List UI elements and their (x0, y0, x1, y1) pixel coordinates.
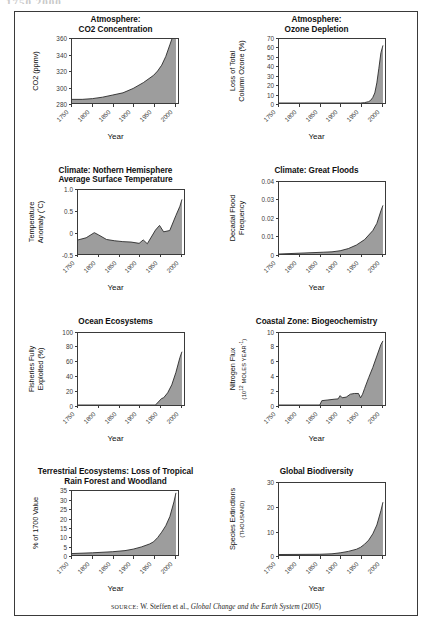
x-axis-label-tropical-forest-loss: Year (15, 584, 216, 593)
chart-cell-ozone-depletion: Atmosphere:Ozone Depletion01020304050607… (216, 12, 417, 163)
area-series-ozone-depletion (279, 39, 385, 103)
x-tick-label: 1950 (345, 108, 360, 123)
area-series-surface-temperature (78, 190, 184, 254)
chart-title-line2: CO2 Concentration (19, 25, 212, 35)
chart-title-surface-temperature: Climate: Nothern HemisphereAverage Surfa… (15, 166, 216, 185)
x-axis-label-co2-concentration: Year (15, 132, 216, 141)
x-tick-mark (320, 556, 321, 559)
x-tick-mark (92, 104, 93, 107)
x-axis-label-ocean-ecosystems: Year (15, 434, 216, 443)
x-tick-mark (98, 255, 99, 258)
figure-frame: Atmosphere:CO2 Concentration280300320340… (14, 11, 418, 616)
y-axis-label-co2-concentration: CO2 (ppmv) (31, 38, 40, 104)
figure-page: 1750 2000 Atmosphere:CO2 Concentration28… (0, 0, 433, 629)
y-tick-label: 300 (15, 84, 67, 91)
source-year: (2005) (300, 603, 321, 611)
chart-title-line2: Ozone Depletion (220, 25, 413, 35)
x-tick-label: 1950 (345, 259, 360, 274)
x-tick-label: 1850 (97, 108, 112, 123)
x-tick-mark (160, 406, 161, 409)
x-tick-label: 2000 (165, 410, 180, 425)
x-tick-label: 1800 (76, 561, 91, 576)
x-tick-mark (181, 406, 182, 409)
y-tick-label: 20 (15, 515, 67, 522)
plot-area-co2-concentration (71, 38, 179, 104)
x-tick-mark (340, 104, 341, 107)
y-tick-mark (69, 500, 72, 501)
y-tick-mark (69, 537, 72, 538)
chart-title-tropical-forest-loss: Terrestrial Ecosystems: Loss of Tropical… (15, 467, 216, 486)
x-tick-mark (181, 255, 182, 258)
y-tick-label: 340 (15, 51, 67, 58)
y-tick-mark (276, 391, 279, 392)
chart-title-coastal-biogeochemistry: Coastal Zone: Biogeochemistry (216, 317, 417, 327)
x-tick-label: 1900 (117, 561, 132, 576)
chart-cell-global-biodiversity: Global Biodiversity0102030Species Extinc… (216, 464, 417, 615)
chart-title-line1: Coastal Zone: Biogeochemistry (220, 317, 413, 327)
area-series-tropical-forest-loss (72, 491, 178, 555)
x-tick-label: 1750 (262, 561, 277, 576)
y-tick-mark (69, 509, 72, 510)
x-tick-label: 1800 (82, 259, 97, 274)
x-tick-label: 1900 (324, 410, 339, 425)
y-tick-mark (276, 38, 279, 39)
y-tick-mark (75, 332, 78, 333)
x-tick-mark (299, 556, 300, 559)
y-tick-mark (69, 71, 72, 72)
x-tick-label: 1750 (55, 561, 70, 576)
area-series-coastal-biogeochemistry (279, 333, 385, 405)
x-tick-mark (71, 556, 72, 559)
chart-title-line2: Average Surface Temperature (19, 175, 212, 185)
x-tick-label: 1900 (117, 108, 132, 123)
x-tick-mark (278, 104, 279, 107)
plot-area-coastal-biogeochemistry (278, 332, 386, 406)
x-tick-mark (77, 255, 78, 258)
x-tick-label: 1750 (55, 108, 70, 123)
y-tick-mark (276, 218, 279, 219)
y-tick-mark (276, 361, 279, 362)
chart-cell-coastal-biogeochemistry: Coastal Zone: Biogeochemistry0246810Nitr… (216, 314, 417, 465)
y-tick-label: 35 (15, 487, 67, 494)
y-tick-label: 0 (15, 553, 67, 560)
y-tick-mark (276, 507, 279, 508)
x-axis-label-global-biodiversity: Year (216, 584, 417, 593)
x-axis-label-great-floods: Year (216, 283, 417, 292)
x-tick-mark (154, 556, 155, 559)
x-tick-mark (119, 406, 120, 409)
x-tick-label: 1850 (304, 410, 319, 425)
plot-area-ocean-ecosystems (77, 332, 185, 406)
source-label: SOURCE: (111, 604, 138, 610)
x-tick-label: 1800 (82, 410, 97, 425)
y-axis-label-ocean-ecosystems: Fisheries FullyExploited (%) (27, 332, 45, 406)
x-tick-mark (361, 406, 362, 409)
x-tick-label: 2000 (366, 259, 381, 274)
y-tick-mark (69, 490, 72, 491)
x-tick-label: 1800 (283, 561, 298, 576)
x-tick-mark (299, 406, 300, 409)
x-tick-label: 1750 (262, 259, 277, 274)
x-tick-mark (361, 556, 362, 559)
x-tick-label: 1850 (304, 259, 319, 274)
chart-cell-tropical-forest-loss: Terrestrial Ecosystems: Loss of Tropical… (15, 464, 216, 615)
source-caption: SOURCE: W. Steffen et al., Global Change… (15, 603, 417, 611)
area-series-co2-concentration (72, 39, 178, 103)
y-tick-mark (69, 528, 72, 529)
x-tick-mark (119, 255, 120, 258)
y-tick-label: 10 (15, 534, 67, 541)
y-axis-label-global-biodiversity: Species Extinctions(THOUSAND) (228, 482, 247, 556)
x-tick-mark (133, 104, 134, 107)
x-tick-label: 1950 (345, 561, 360, 576)
y-tick-mark (276, 376, 279, 377)
y-tick-label: 5 (15, 543, 67, 550)
chart-grid: Atmosphere:CO2 Concentration280300320340… (15, 12, 417, 615)
x-tick-label: 1850 (97, 561, 112, 576)
x-tick-label: 2000 (165, 259, 180, 274)
x-tick-label: 1850 (304, 108, 319, 123)
chart-cell-ocean-ecosystems: Ocean Ecosystems020406080100Fisheries Fu… (15, 314, 216, 465)
y-tick-label: 25 (15, 506, 67, 513)
x-tick-label: 2000 (366, 561, 381, 576)
y-axis-label-tropical-forest-loss: % of 1700 Value (31, 490, 40, 556)
chart-title-line1: Atmosphere: (19, 15, 212, 25)
chart-title-line1: Climate: Great Floods (220, 166, 413, 176)
chart-title-ocean-ecosystems: Ocean Ecosystems (15, 317, 216, 327)
